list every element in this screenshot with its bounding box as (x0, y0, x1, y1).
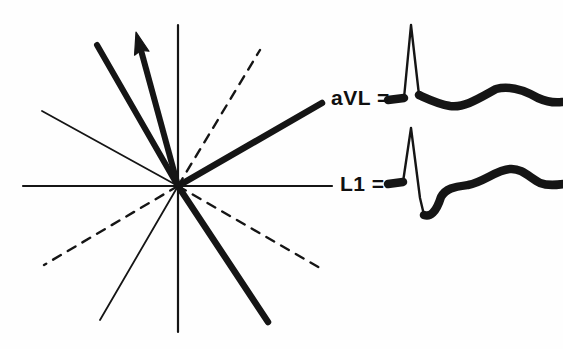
avl-tracing-baseline-stub (388, 98, 404, 100)
figure-background (0, 0, 563, 349)
l1-tracing-baseline-stub (388, 182, 403, 184)
avl-lead-label: aVL = (331, 86, 390, 109)
l1-lead-label: L1 = (340, 172, 385, 195)
ecg-axis-figure: aVL = L1 = (0, 0, 563, 349)
figure-canvas: aVL = L1 = (0, 0, 563, 349)
